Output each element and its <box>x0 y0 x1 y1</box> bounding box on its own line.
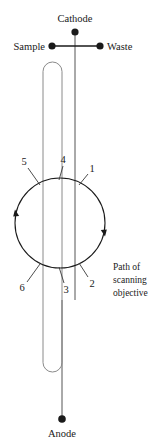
marker-label-6: 6 <box>19 282 24 293</box>
marker-label-3: 3 <box>63 284 68 295</box>
waste-label: Waste <box>107 41 133 52</box>
figure-canvas: Cathode Sample Waste Anode 1 2 3 4 5 6 P… <box>0 0 154 444</box>
capillary-tube <box>43 62 62 372</box>
cathode-dot <box>71 28 78 35</box>
marker-leader-6 <box>27 264 40 282</box>
anode-dot <box>58 415 66 423</box>
scanning-objective-path-circle <box>15 178 105 268</box>
circle-direction-arrow-left <box>12 209 19 217</box>
marker-label-2: 2 <box>89 278 94 289</box>
scanning-objective-caption-line3: objective <box>113 288 148 298</box>
marker-label-5: 5 <box>21 156 26 167</box>
sample-dot <box>48 42 55 49</box>
marker-leader-2 <box>79 263 88 277</box>
marker-label-4: 4 <box>60 154 66 165</box>
waste-dot <box>96 42 103 49</box>
scanning-objective-caption-line2: scanning <box>113 275 147 285</box>
marker-leader-5 <box>28 168 40 185</box>
scanning-objective-caption-line1: Path of <box>113 262 141 272</box>
marker-label-1: 1 <box>89 163 94 174</box>
marker-leader-1 <box>79 174 88 185</box>
cathode-label: Cathode <box>58 13 93 24</box>
anode-label: Anode <box>48 428 76 439</box>
sample-label: Sample <box>14 41 46 52</box>
circle-direction-arrow-right <box>101 229 108 237</box>
